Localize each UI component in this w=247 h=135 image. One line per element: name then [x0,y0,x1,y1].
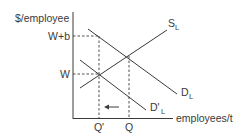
svg-text:L: L [161,107,165,116]
tick-q-prime: Q' [94,121,104,133]
svg-text:S: S [168,17,175,29]
left-arrow-icon [104,105,119,110]
svg-text:L: L [189,92,193,101]
demand-curve-d-prime-l [80,60,146,110]
supply-curve-sl [80,30,167,88]
svg-text:D: D [181,86,189,98]
y-axis-label: $/employee [15,12,69,24]
svg-text:L: L [175,23,179,32]
label-dl: D L [181,86,193,101]
tick-w-plus-b: W+b [48,30,70,42]
labor-market-diagram: $/employee employees/t W+b W Q' Q S L D … [0,0,247,135]
x-axis-label: employees/t [176,112,233,124]
tick-q: Q [125,121,133,133]
tick-w: W [60,68,70,80]
svg-text:D': D' [150,101,160,113]
label-d-prime-l: D' L [150,101,165,116]
label-sl: S L [168,17,179,32]
demand-curve-dl [88,29,177,94]
